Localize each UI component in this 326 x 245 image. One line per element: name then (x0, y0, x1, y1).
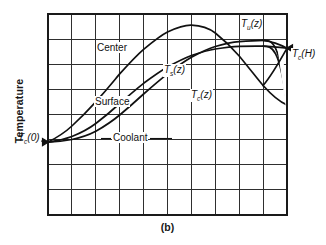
right-margin-mask (288, 14, 326, 215)
chart-svg (0, 0, 326, 245)
label-coolant: Coolant (112, 132, 148, 143)
annotation-center-curve: Tu(z) (240, 18, 263, 31)
annotation-outlet-arg: (H) (301, 48, 315, 59)
annotation-outlet-temperature: Tc(H) (291, 48, 316, 61)
annotation-center-arg: (z) (251, 18, 263, 29)
annotation-surface-arg: (z) (173, 64, 185, 75)
annotation-inlet-arg: (0) (27, 132, 39, 143)
y-axis-title: Temperature (11, 51, 27, 171)
label-surface: Surface (94, 96, 130, 107)
chart-plot-area (0, 0, 326, 245)
annotation-coolant-arg: (z) (200, 89, 212, 100)
label-center: Center (96, 42, 128, 53)
figure-caption: (b) (48, 221, 287, 233)
figure-temperature-profile: Center Surface Coolant Tu(z) Ts(z) Tc(z)… (0, 0, 326, 245)
annotation-surface-curve: Ts(z) (163, 64, 186, 77)
annotation-coolant-curve: Tc(z) (190, 89, 213, 102)
